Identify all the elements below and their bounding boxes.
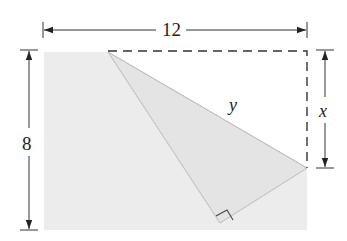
corner-drop-label: x xyxy=(319,99,327,123)
folded-paper-diagram: 12 8 x y xyxy=(0,0,347,241)
width-label: 12 xyxy=(159,20,184,39)
height-label: 8 xyxy=(22,131,32,156)
crease-label: y xyxy=(229,96,237,114)
